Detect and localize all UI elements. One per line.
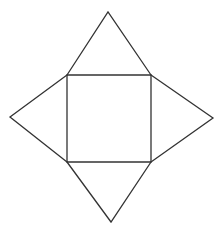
triangle-left	[10, 75, 67, 162]
square-base	[67, 75, 151, 162]
triangle-bottom	[67, 162, 151, 222]
triangle-right	[151, 75, 213, 162]
triangle-top	[67, 12, 151, 75]
pyramid-net-diagram	[0, 0, 222, 231]
